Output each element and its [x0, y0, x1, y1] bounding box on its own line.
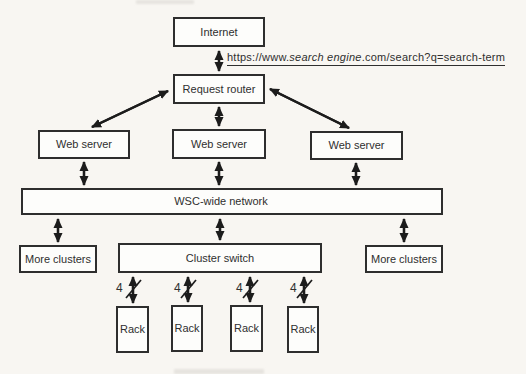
node-more-clusters-left: More clusters: [19, 245, 97, 273]
link-width-label-4: 4: [290, 281, 297, 295]
node-rack-1: Rack: [116, 306, 149, 353]
link-width-label-1: 4: [116, 281, 123, 295]
node-cluster-switch: Cluster switch: [118, 243, 322, 273]
link-width-label-2: 4: [174, 281, 181, 295]
node-internet-label: Internet: [200, 27, 237, 38]
node-web-server-2: Web server: [172, 129, 266, 159]
arrow-router-webserver3: [270, 89, 349, 128]
node-web-server-3: Web server: [310, 131, 403, 160]
scan-artifact-top: [136, 0, 194, 4]
node-cluster-switch-label: Cluster switch: [186, 253, 254, 264]
search-url: https://www.search engine.com/search?q=s…: [227, 51, 505, 66]
node-web-server-3-label: Web server: [328, 140, 384, 151]
node-rack-1-label: Rack: [120, 324, 145, 335]
node-web-server-1-label: Web server: [56, 139, 112, 150]
node-more-clusters-right-label: More clusters: [371, 254, 437, 265]
node-web-server-2-label: Web server: [191, 139, 247, 150]
node-rack-4-label: Rack: [290, 324, 315, 335]
node-rack-3: Rack: [230, 305, 263, 352]
node-rack-4: Rack: [287, 306, 319, 353]
search-url-engine: search engine: [289, 51, 361, 63]
arrow-router-webserver1: [92, 91, 168, 127]
scan-artifact-bottom: [174, 369, 264, 374]
search-url-suffix: .com/search?q=search-term: [362, 51, 506, 63]
node-rack-3-label: Rack: [234, 323, 259, 334]
wsc-architecture-diagram: Internet https://www.search engine.com/s…: [0, 0, 526, 374]
node-web-server-1: Web server: [38, 130, 130, 159]
node-wsc-network-label: WSC-wide network: [174, 196, 290, 207]
link-width-label-3: 4: [236, 281, 243, 295]
node-request-router-label: Request router: [183, 84, 256, 95]
node-wsc-network: WSC-wide network: [21, 188, 443, 215]
search-url-prefix: https://www.: [227, 51, 289, 63]
node-rack-2: Rack: [171, 305, 203, 352]
node-rack-2-label: Rack: [174, 323, 199, 334]
node-more-clusters-right: More clusters: [365, 245, 443, 273]
node-internet: Internet: [173, 17, 265, 47]
node-more-clusters-left-label: More clusters: [25, 254, 91, 265]
node-request-router: Request router: [173, 74, 265, 104]
